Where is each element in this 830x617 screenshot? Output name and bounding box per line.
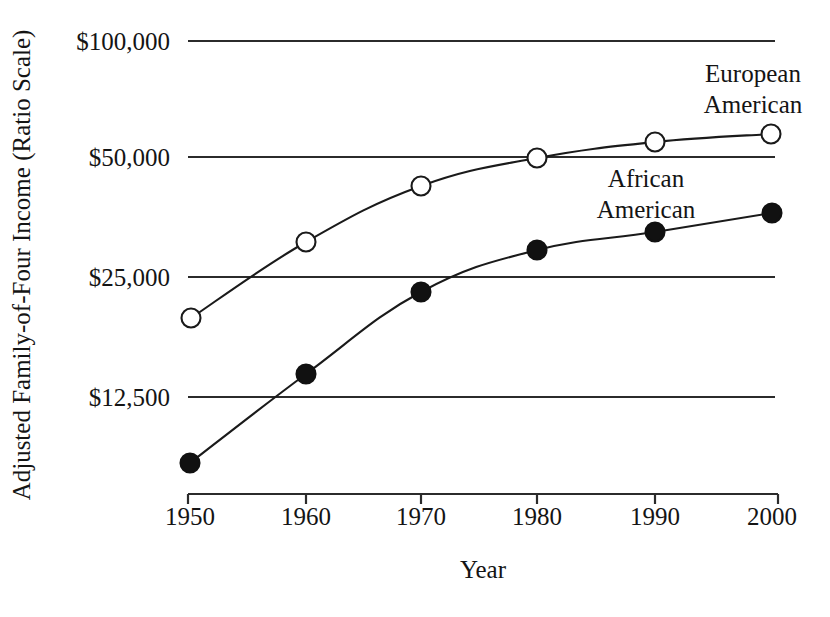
data-point-marker <box>297 233 316 252</box>
y-axis-tick-label: $50,000 <box>89 144 170 171</box>
series-annotation-label: American <box>704 91 803 118</box>
data-point-marker <box>412 283 431 302</box>
series-annotation-label: African <box>608 165 685 192</box>
chart-container: $100,000$50,000$25,000$12,500 1950196019… <box>0 0 830 617</box>
data-point-marker <box>528 241 547 260</box>
data-point-marker <box>763 204 782 223</box>
y-axis-tick-label: $100,000 <box>76 28 170 55</box>
data-point-marker <box>182 309 201 328</box>
x-axis-tick-label: 1990 <box>630 503 680 530</box>
income-line-chart: $100,000$50,000$25,000$12,500 1950196019… <box>0 0 830 617</box>
data-point-marker <box>412 177 431 196</box>
data-point-marker <box>762 125 781 144</box>
x-axis-tick-label: 1970 <box>396 503 446 530</box>
data-point-marker <box>646 133 665 152</box>
data-point-marker <box>297 365 316 384</box>
x-axis-title: Year <box>460 556 507 583</box>
data-point-marker <box>528 149 547 168</box>
x-axis-tick-label: 1960 <box>281 503 331 530</box>
data-point-marker <box>646 223 665 242</box>
x-axis-tick-label: 1980 <box>512 503 562 530</box>
series-annotation-label: European <box>705 60 801 87</box>
data-point-marker <box>181 454 200 473</box>
y-axis-tick-label: $25,000 <box>89 264 170 291</box>
y-axis-tick-label: $12,500 <box>89 384 170 411</box>
x-axis-tick-label: 1950 <box>165 503 215 530</box>
series-annotation-label: American <box>597 196 696 223</box>
y-axis-title: Adjusted Family-of-Four Income (Ratio Sc… <box>8 30 36 501</box>
x-axis-tick-label: 2000 <box>747 503 797 530</box>
